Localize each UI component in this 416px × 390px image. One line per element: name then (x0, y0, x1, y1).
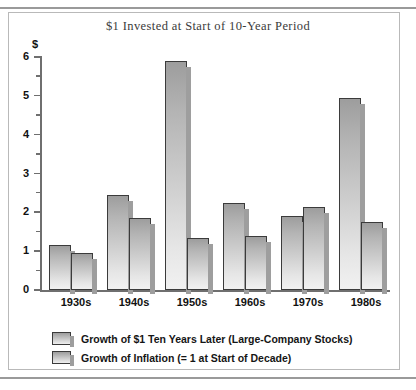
bar-stocks (49, 245, 71, 290)
y-tick-major (34, 95, 40, 97)
legend-label-stocks: Growth of $1 Ten Years Later (Large-Comp… (81, 333, 353, 345)
chart-title: $1 Invested at Start of 10-Year Period (0, 19, 416, 34)
y-tick-minor (36, 114, 40, 116)
legend-swatch-inflation (52, 351, 71, 364)
bar-group (107, 195, 151, 290)
plot-area (41, 57, 389, 290)
bar-stocks (223, 203, 245, 290)
bar-inflation (187, 238, 209, 290)
y-tick-label: 1 (15, 244, 29, 256)
y-tick-major (34, 56, 40, 58)
y-tick-minor (36, 75, 40, 77)
bottom-divider (0, 377, 416, 379)
bar-group (223, 203, 267, 290)
y-tick-label: 4 (15, 128, 29, 140)
y-tick-minor (36, 192, 40, 194)
bar-stocks (165, 61, 187, 290)
y-tick-major (34, 250, 40, 252)
bar-inflation (245, 236, 267, 290)
y-tick-minor (36, 231, 40, 233)
x-tick-label: 1980s (331, 296, 401, 308)
bar-stocks (339, 98, 361, 290)
y-tick-label: 6 (15, 50, 29, 62)
bar-stocks (107, 195, 129, 290)
y-tick-label: 2 (15, 205, 29, 217)
y-tick-label: 3 (15, 167, 29, 179)
bar-group (49, 245, 93, 290)
bar-inflation (129, 218, 151, 290)
y-tick-major (34, 173, 40, 175)
bar-group (281, 207, 325, 290)
bar-group (339, 98, 383, 290)
legend-swatch-stocks (52, 332, 71, 345)
legend-label-inflation: Growth of Inflation (= 1 at Start of Dec… (81, 352, 291, 364)
bar-group (165, 61, 209, 290)
y-tick-major (34, 211, 40, 213)
legend-item-inflation: Growth of Inflation (= 1 at Start of Dec… (52, 351, 353, 364)
y-tick-minor (36, 153, 40, 155)
chart-legend: Growth of $1 Ten Years Later (Large-Comp… (52, 332, 353, 370)
y-tick-minor (36, 270, 40, 272)
top-divider (0, 7, 416, 9)
y-axis-unit-label: $ (32, 38, 38, 50)
y-tick-major (34, 134, 40, 136)
y-tick-major (34, 289, 40, 291)
bar-inflation (361, 222, 383, 290)
bar-stocks (281, 216, 303, 290)
y-tick-label: 0 (15, 283, 29, 295)
bar-inflation (303, 207, 325, 290)
bar-inflation (71, 253, 93, 290)
legend-item-stocks: Growth of $1 Ten Years Later (Large-Comp… (52, 332, 353, 345)
y-tick-label: 5 (15, 89, 29, 101)
